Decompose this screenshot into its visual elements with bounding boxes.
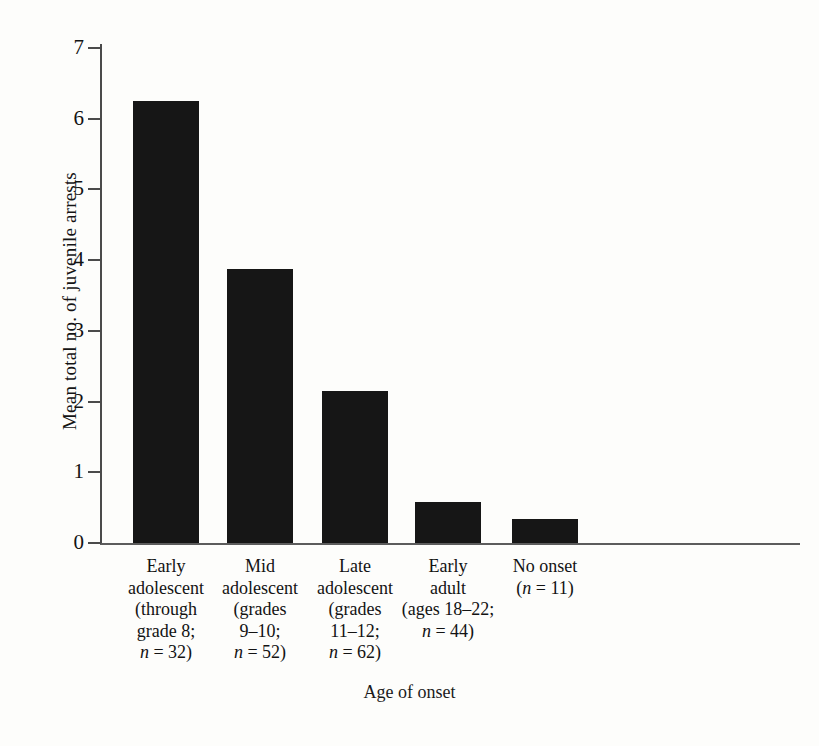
bar [133, 101, 199, 543]
y-axis-tick [88, 118, 101, 120]
y-axis-tick-label: 6 [56, 108, 84, 129]
bar [227, 269, 293, 543]
category-sample-size: n = 62) [280, 642, 430, 664]
y-axis-tick [88, 542, 101, 544]
category-label-line: (ages 18–22; [373, 599, 523, 621]
category-label: No onset(n = 11) [470, 556, 620, 599]
bar-chart-figure: Mean total no. of juvenile arrests 01234… [0, 0, 819, 746]
sample-size-symbol: n [522, 578, 531, 598]
y-axis-tick-label: 4 [56, 249, 84, 270]
bar [322, 391, 388, 543]
sample-size-symbol: n [329, 642, 338, 662]
sample-size-symbol: n [140, 642, 149, 662]
y-axis-tick-label: 2 [56, 391, 84, 412]
x-axis-line [100, 543, 800, 545]
y-axis-tick-label: 1 [56, 461, 84, 482]
sample-size-symbol: n [234, 642, 243, 662]
y-axis-tick [88, 47, 101, 49]
bar [415, 502, 481, 543]
x-axis-title: Age of onset [0, 682, 819, 703]
category-label-line: No onset [470, 556, 620, 578]
y-axis-tick-label: 0 [56, 532, 84, 553]
y-axis-tick [88, 330, 101, 332]
category-sample-size: n = 44) [373, 621, 523, 643]
sample-size-symbol: n [422, 621, 431, 641]
y-axis-tick-label: 3 [56, 320, 84, 341]
y-axis-tick [88, 471, 101, 473]
y-axis-tick [88, 259, 101, 261]
y-axis-title: Mean total no. of juvenile arrests [59, 91, 81, 511]
y-axis-tick-label: 7 [56, 37, 84, 58]
category-sample-size: (n = 11) [470, 578, 620, 600]
y-axis-tick-label: 5 [56, 178, 84, 199]
bar [512, 519, 578, 543]
y-axis-tick [88, 188, 101, 190]
y-axis-tick [88, 401, 101, 403]
